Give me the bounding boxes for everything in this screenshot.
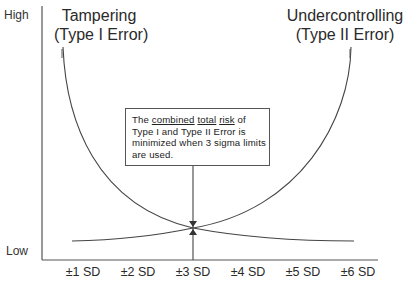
arrow-down-icon [189,221,197,227]
x-tick-3sd: ±3 SD [176,265,211,279]
x-tick-2sd: ±2 SD [121,265,156,279]
type2-title-line2: (Type II Error) [279,25,410,44]
type1-title: Tampering (Type I Error) [54,6,144,44]
x-tick-1sd: ±1 SD [66,265,101,279]
shallow-right-curve [193,228,354,241]
arrow-up-icon [189,229,197,235]
x-tick-4sd: ±4 SD [231,265,266,279]
y-axis-high-label: High [4,8,29,22]
y-axis-low-label: Low [6,244,28,258]
note-underline-total: total [197,114,216,125]
note-underline-risk: risk [219,114,235,125]
shallow-left-curve [72,228,193,241]
x-tick-6sd: ±6 SD [341,265,376,279]
annotation-box: The combined total risk of Type I and Ty… [125,108,270,166]
type1-title-line2: (Type I Error) [54,25,144,44]
note-text: The [132,114,152,125]
type2-title-line1: Undercontrolling [279,6,410,25]
type1-title-line1: Tampering [54,6,144,25]
type2-title: Undercontrolling (Type II Error) [279,6,410,44]
note-underline-combined: combined [152,114,195,125]
x-tick-5sd: ±5 SD [286,265,321,279]
